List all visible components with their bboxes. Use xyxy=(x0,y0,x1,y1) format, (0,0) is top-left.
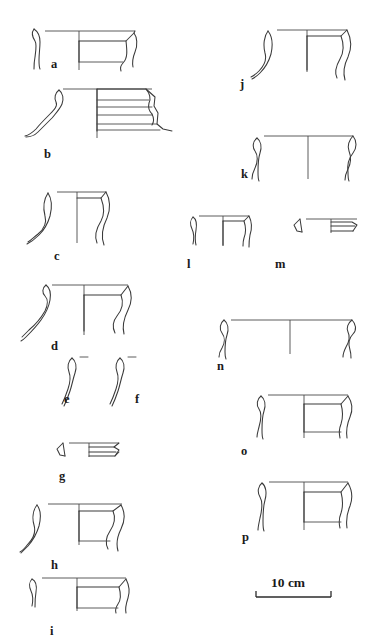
vessel-drawing-b xyxy=(25,89,172,138)
vessel-drawing-d xyxy=(21,285,131,341)
vessel-drawing-k xyxy=(252,136,356,181)
vessel-drawing-p xyxy=(258,482,352,531)
vessel-label-m: m xyxy=(275,258,285,271)
vessel-drawing-c xyxy=(27,192,110,245)
vessel-label-g: g xyxy=(59,470,65,483)
vessel-label-p: p xyxy=(242,531,249,544)
vessel-drawing-m xyxy=(294,219,357,233)
vessel-label-o: o xyxy=(241,445,247,458)
vessel-label-e: e xyxy=(64,393,70,406)
vessel-label-j: j xyxy=(240,78,244,91)
vessel-label-f: f xyxy=(135,393,139,406)
vessel-label-i: i xyxy=(50,625,53,638)
pottery-profile-figure: a b c d e f g h i j k l m n o p 10 cm xyxy=(0,0,372,643)
vessel-drawing-o xyxy=(257,395,352,439)
scale-bar xyxy=(256,591,331,597)
vessel-label-d: d xyxy=(51,340,58,353)
vessel-drawing-l xyxy=(191,216,252,247)
scale-bar-label: 10 cm xyxy=(271,576,305,590)
vessel-label-c: c xyxy=(54,250,60,263)
vessel-label-a: a xyxy=(51,58,57,71)
vessel-drawing-h xyxy=(20,504,124,553)
pottery-drawings-layer xyxy=(0,0,372,643)
vessel-drawing-g xyxy=(57,443,119,457)
vessel-drawing-a xyxy=(32,29,136,71)
vessel-drawing-n xyxy=(219,320,356,359)
vessel-drawing-i xyxy=(30,578,129,613)
vessel-drawing-j xyxy=(251,30,351,80)
vessel-drawing-f xyxy=(110,357,136,406)
vessel-label-k: k xyxy=(241,168,248,181)
vessel-label-b: b xyxy=(44,148,51,161)
vessel-label-l: l xyxy=(187,258,190,271)
vessel-label-h: h xyxy=(51,559,58,572)
vessel-label-n: n xyxy=(217,360,224,373)
